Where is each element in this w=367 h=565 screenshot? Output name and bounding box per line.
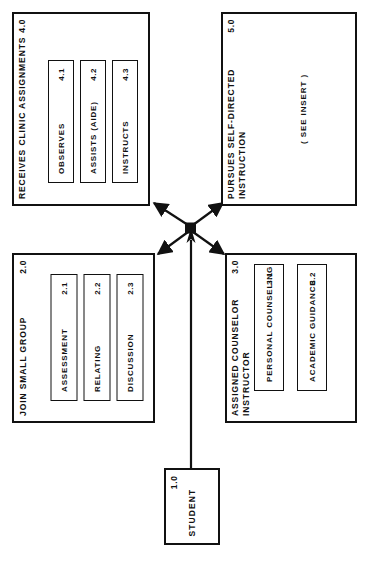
node-title-2: JOIN SMALL GROUP — [17, 317, 28, 416]
node-id-4: 4.0 — [17, 19, 27, 33]
subtask-id-3-1: 3.1 — [265, 272, 274, 285]
subtask-label-4-3: INSTRUCTS — [121, 121, 130, 174]
subtask-4-3[interactable]: INSTRUCTS 4.3 — [112, 60, 138, 183]
node-pursues-self-directed-instruction[interactable]: PURSUES SELF-DIRECTED INSTRUCTION 5.0 ( … — [221, 12, 357, 206]
subtask-label-2-1: ASSESSMENT — [59, 328, 68, 392]
subtask-id-4-1: 4.1 — [57, 68, 66, 81]
node-note-5: ( SEE INSERT ) — [299, 12, 308, 206]
subtask-2-3[interactable]: DISCUSSION 2.3 — [116, 274, 143, 401]
subtask-id-3-2: 3.2 — [308, 272, 317, 285]
node-id-1: 1.0 — [169, 475, 179, 489]
node-id-3: 3.0 — [230, 260, 240, 274]
subtask-id-2-3: 2.3 — [125, 282, 134, 295]
subtask-label-2-3: DISCUSSION — [125, 334, 134, 392]
subtask-2-2[interactable]: RELATING 2.2 — [83, 274, 110, 401]
node-id-2: 2.0 — [17, 260, 27, 274]
diagram-canvas: RECEIVES CLINIC ASSIGNMENTS 4.0 OBSERVES… — [0, 0, 367, 565]
edge-junction-to-node-5 — [193, 203, 223, 225]
subtask-4-1[interactable]: OBSERVES 4.1 — [48, 60, 74, 183]
node-title-1: STUDENT — [187, 488, 197, 536]
node-assigned-counselor-instructor[interactable]: ASSIGNED COUNSELOR INSTRUCTOR 3.0 PERSON… — [225, 253, 357, 423]
edge-student-to-junction — [187, 228, 196, 468]
node-receives-clinic-assignments[interactable]: RECEIVES CLINIC ASSIGNMENTS 4.0 OBSERVES… — [12, 12, 150, 206]
node-title-5: PURSUES SELF-DIRECTED INSTRUCTION — [226, 69, 248, 199]
subtask-3-1[interactable]: PERSONAL COUNSELING 3.1 — [254, 264, 284, 391]
node-title-3: ASSIGNED COUNSELOR INSTRUCTOR — [230, 299, 252, 416]
node-id-5: 5.0 — [226, 19, 236, 33]
subtask-2-1[interactable]: ASSESSMENT 2.1 — [50, 274, 77, 401]
junction-marker — [185, 223, 196, 234]
node-join-small-group[interactable]: JOIN SMALL GROUP 2.0 ASSESSMENT 2.1 RELA… — [12, 253, 155, 423]
subtask-label-2-2: RELATING — [92, 345, 101, 392]
subtask-id-4-3: 4.3 — [121, 68, 130, 81]
edge-junction-to-node-2 — [158, 232, 188, 254]
subtask-3-2[interactable]: ACADEMIC GUIDANCE 3.2 — [297, 264, 327, 391]
edge-junction-to-node-4 — [154, 203, 188, 225]
subtask-4-2[interactable]: ASSISTS (AIDE) 4.2 — [80, 60, 106, 183]
subtask-id-4-2: 4.2 — [89, 68, 98, 81]
subtask-label-4-1: OBSERVES — [57, 123, 66, 174]
subtask-label-3-2: ACADEMIC GUIDANCE — [308, 280, 317, 382]
subtask-id-2-2: 2.2 — [92, 282, 101, 295]
subtask-label-4-2: ASSISTS (AIDE) — [89, 101, 98, 174]
edge-junction-to-node-3 — [193, 232, 224, 254]
subtask-id-2-1: 2.1 — [59, 282, 68, 295]
node-title-4: RECEIVES CLINIC ASSIGNMENTS — [17, 37, 28, 199]
node-student[interactable]: STUDENT 1.0 — [164, 468, 220, 545]
